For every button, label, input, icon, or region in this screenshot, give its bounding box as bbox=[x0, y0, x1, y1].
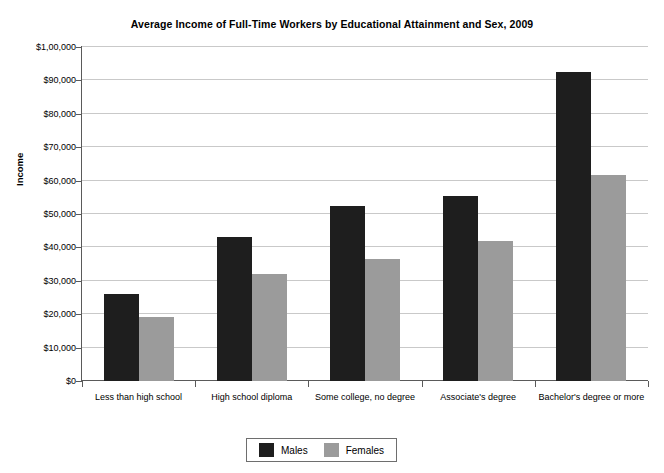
y-tick-label: $40,000 bbox=[43, 242, 76, 252]
x-tick-mark bbox=[648, 381, 649, 387]
bar-males-1 bbox=[217, 237, 252, 381]
legend-swatch-icon bbox=[324, 443, 339, 457]
legend-label: Females bbox=[346, 445, 384, 456]
y-tick-label: $30,000 bbox=[43, 276, 76, 286]
y-tick-label: $1,00,000 bbox=[36, 42, 76, 52]
y-tick-label: $90,000 bbox=[43, 75, 76, 85]
x-tick-mark bbox=[308, 381, 309, 387]
legend-item-females[interactable]: Females bbox=[324, 443, 384, 457]
bar-females-0 bbox=[139, 317, 174, 381]
x-category-label: High school diploma bbox=[195, 392, 308, 404]
x-tick-mark bbox=[422, 381, 423, 387]
y-axis-title: Income bbox=[14, 153, 25, 186]
bar-chart: Average Income of Full-Time Workers by E… bbox=[0, 0, 664, 473]
bar-males-3 bbox=[443, 196, 478, 381]
chart-legend: MalesFemales bbox=[246, 438, 397, 462]
y-tick-label: $60,000 bbox=[43, 176, 76, 186]
bar-females-3 bbox=[478, 241, 513, 381]
gridline bbox=[82, 46, 648, 47]
legend-swatch-icon bbox=[259, 443, 274, 457]
legend-label: Males bbox=[281, 445, 308, 456]
bar-females-4 bbox=[591, 175, 626, 381]
x-tick-mark bbox=[535, 381, 536, 387]
y-tick-label: $70,000 bbox=[43, 142, 76, 152]
x-tick-mark bbox=[82, 381, 83, 387]
x-category-label: Some college, no degree bbox=[308, 392, 421, 404]
bar-females-1 bbox=[252, 274, 287, 381]
x-tick-mark bbox=[195, 381, 196, 387]
y-tick-label: $50,000 bbox=[43, 209, 76, 219]
y-tick-label: $20,000 bbox=[43, 309, 76, 319]
bar-males-0 bbox=[104, 294, 139, 382]
y-tick-label: $0 bbox=[66, 376, 76, 386]
chart-title: Average Income of Full-Time Workers by E… bbox=[0, 18, 664, 30]
x-category-label: Less than high school bbox=[82, 392, 195, 404]
bar-males-4 bbox=[556, 72, 591, 381]
bar-females-2 bbox=[365, 259, 400, 381]
y-tick-label: $80,000 bbox=[43, 109, 76, 119]
y-tick-label: $10,000 bbox=[43, 343, 76, 353]
x-category-label: Associate's degree bbox=[422, 392, 535, 404]
x-category-label: Bachelor's degree or more bbox=[535, 392, 648, 404]
plot-area bbox=[82, 47, 648, 381]
legend-item-males[interactable]: Males bbox=[259, 443, 308, 457]
bar-males-2 bbox=[330, 206, 365, 381]
